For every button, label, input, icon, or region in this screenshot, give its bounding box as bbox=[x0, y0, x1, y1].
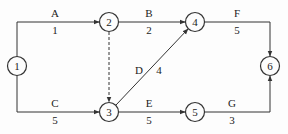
activity-f-name: F bbox=[234, 7, 240, 19]
activity-d-duration: 4 bbox=[156, 64, 162, 76]
node-4-label: 4 bbox=[192, 16, 198, 28]
node-6: 6 bbox=[261, 57, 280, 76]
activity-b-name: B bbox=[145, 7, 152, 19]
activity-e-name: E bbox=[146, 97, 153, 109]
node-3-label: 3 bbox=[106, 106, 112, 118]
activity-g-arrow bbox=[205, 76, 270, 112]
activity-d-arrow bbox=[116, 29, 188, 105]
node-2: 2 bbox=[100, 13, 119, 32]
node-4: 4 bbox=[186, 13, 205, 32]
activity-b-duration: 2 bbox=[146, 24, 152, 36]
activity-a-name: A bbox=[51, 7, 59, 19]
activity-a-duration: 1 bbox=[52, 24, 58, 36]
activity-c-name: C bbox=[51, 97, 58, 109]
activity-d-name: D bbox=[135, 64, 143, 76]
activity-c-duration: 5 bbox=[52, 114, 58, 126]
activity-g-duration: 3 bbox=[229, 114, 235, 126]
activity-f-duration: 5 bbox=[234, 24, 240, 36]
node-2-label: 2 bbox=[106, 16, 112, 28]
node-6-label: 6 bbox=[267, 60, 273, 72]
node-5: 5 bbox=[186, 103, 205, 122]
activity-e-duration: 5 bbox=[146, 114, 152, 126]
node-1-label: 1 bbox=[14, 60, 20, 72]
network-diagram: A 1 B 2 C 5 D 4 E 5 F 5 G 3 1 2 bbox=[0, 0, 288, 134]
node-1: 1 bbox=[8, 57, 27, 76]
node-3: 3 bbox=[100, 103, 119, 122]
activity-a-arrow bbox=[17, 22, 99, 57]
node-5-label: 5 bbox=[192, 106, 198, 118]
activity-g-name: G bbox=[228, 97, 236, 109]
